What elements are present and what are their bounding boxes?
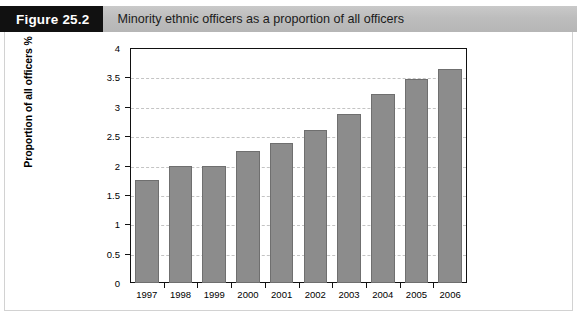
figure-header-bar: Figure 25.2 Minority ethnic officers as …	[0, 6, 577, 32]
figure-panel	[4, 32, 573, 311]
figure-caption: Minority ethnic officers as a proportion…	[103, 6, 404, 32]
figure-number-tag: Figure 25.2	[0, 6, 103, 32]
figure-container: Figure 25.2 Minority ethnic officers as …	[0, 0, 577, 316]
